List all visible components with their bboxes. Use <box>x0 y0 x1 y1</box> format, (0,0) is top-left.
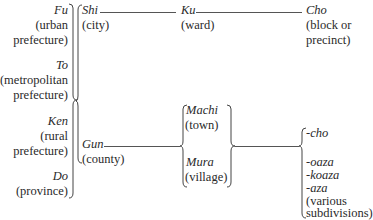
term-ku: Ku <box>181 3 196 17</box>
connector-gun-machi <box>104 146 180 147</box>
term-do: Do <box>53 169 68 183</box>
subdivision-cho: -cho <box>306 126 328 140</box>
gloss-ken-2: prefecture) <box>13 144 68 158</box>
term-gun: Gun <box>82 137 104 151</box>
gloss-machi: (town) <box>185 118 218 132</box>
subdivision-aza: -aza <box>306 181 328 195</box>
subdivision-gloss-2: subdivisions) <box>306 206 373 220</box>
subdivision-koaza: -koaza <box>306 168 339 182</box>
subdivision-oaza: -oaza <box>306 155 334 169</box>
gloss-ken-1: (rural <box>40 129 68 143</box>
gloss-mura: (village) <box>185 170 227 184</box>
term-mura: Mura <box>186 155 214 169</box>
term-cho: Cho <box>306 3 327 17</box>
gloss-fu-2: prefecture) <box>13 33 68 47</box>
term-fu: Fu <box>54 3 68 17</box>
term-ken: Ken <box>48 114 68 128</box>
term-to: To <box>56 58 68 72</box>
gloss-to-1: (metropolitan <box>0 73 68 87</box>
connector-town-subdivisions <box>235 146 299 147</box>
gloss-fu-1: (urban <box>35 18 68 32</box>
term-machi: Machi <box>186 103 218 117</box>
gloss-ku: (ward) <box>181 18 214 32</box>
gloss-cho-1: (block or <box>306 18 351 32</box>
connector-shi-ku <box>100 12 176 13</box>
gloss-gun: (county) <box>82 152 124 166</box>
term-shi: Shi <box>82 3 98 17</box>
gloss-do-1: (province) <box>16 184 68 198</box>
gloss-to-2: prefecture) <box>13 88 68 102</box>
gloss-cho-2: precinct) <box>306 33 350 47</box>
connector-ku-cho <box>196 12 302 13</box>
gloss-shi: (city) <box>82 18 109 32</box>
